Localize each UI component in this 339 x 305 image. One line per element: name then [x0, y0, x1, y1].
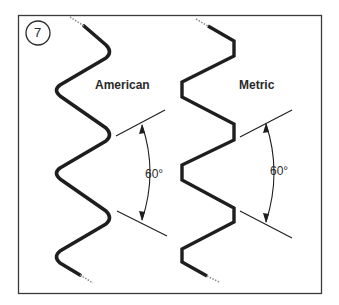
metric-label: Metric [239, 78, 274, 92]
american-label: American [95, 78, 150, 92]
american-angle-label: 60° [145, 167, 163, 181]
figure-frame [19, 16, 322, 294]
american-thread-fade-bottom [80, 275, 93, 283]
american-arrowhead-up [139, 124, 145, 134]
metric-thread-fade-bottom [207, 276, 219, 282]
metric-angle-label: 60° [270, 164, 288, 178]
metric-thread-profile [182, 26, 234, 276]
thread-diagram [0, 0, 339, 305]
american-arrowhead-down [139, 211, 145, 221]
american-thread-profile [57, 26, 110, 275]
american-thread-fade-top [70, 17, 84, 26]
figure-number: 7 [34, 25, 41, 40]
metric-thread-fade-top [196, 19, 208, 26]
metric-arrowhead-down [263, 213, 269, 223]
